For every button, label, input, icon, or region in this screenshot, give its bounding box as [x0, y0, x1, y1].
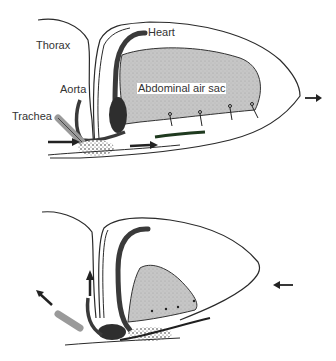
- arrow-flow-icon: [130, 145, 150, 146]
- arrow-out-icon: [40, 294, 52, 305]
- heart: [109, 97, 127, 133]
- thorax-label: Thorax: [36, 40, 70, 51]
- abdominal-air-sac-compressed: [128, 265, 197, 322]
- heart-compressed: [98, 324, 126, 340]
- expiration-panel: [36, 212, 293, 345]
- heart-label: Heart: [148, 27, 175, 38]
- lung: [78, 140, 114, 156]
- trachea-label: Trachea: [12, 111, 52, 122]
- aorta-label: Aorta: [60, 84, 86, 95]
- membrane: [155, 132, 205, 137]
- bird-respiration-diagram: [0, 0, 336, 361]
- abdominal-air-sac-label: Abdominal air sac: [137, 83, 226, 94]
